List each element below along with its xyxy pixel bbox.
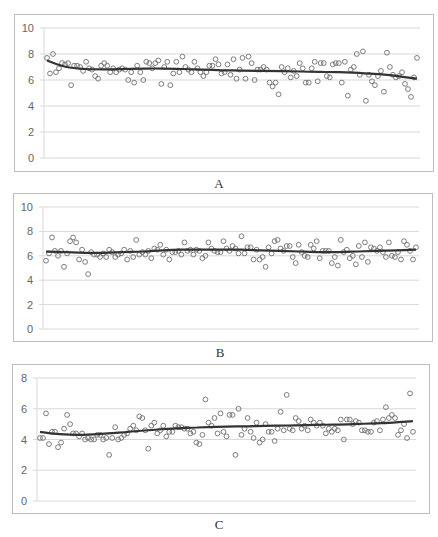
data-point-marker — [239, 433, 244, 438]
data-point-marker — [275, 426, 280, 431]
data-point-marker — [62, 426, 67, 431]
y-tick-label: 2 — [21, 464, 27, 476]
data-point-marker — [170, 429, 175, 434]
y-tick-label: 8 — [21, 372, 27, 384]
data-point-marker — [248, 429, 253, 434]
data-point-marker — [164, 434, 169, 439]
data-point-marker — [233, 453, 238, 458]
data-point-marker — [221, 429, 226, 434]
data-point-marker — [399, 428, 404, 433]
data-point-marker — [152, 420, 157, 425]
data-point-marker — [296, 419, 301, 424]
y-tick-label: 0 — [21, 495, 27, 507]
data-point-marker — [131, 423, 136, 428]
data-point-marker — [329, 429, 334, 434]
data-point-marker — [305, 428, 310, 433]
data-point-marker — [215, 431, 220, 436]
data-point-marker — [68, 422, 73, 427]
data-point-marker — [281, 428, 286, 433]
data-point-marker — [257, 440, 262, 445]
data-point-marker — [44, 411, 49, 416]
data-point-marker — [203, 397, 208, 402]
chart-c-plot: 02468 — [0, 0, 438, 537]
data-point-marker — [284, 393, 289, 398]
panel-label-c: C — [199, 517, 239, 533]
data-point-marker — [47, 442, 52, 447]
data-point-marker — [224, 434, 229, 439]
data-point-marker — [411, 429, 416, 434]
data-point-marker — [200, 433, 205, 438]
data-point-marker — [278, 409, 283, 414]
data-point-marker — [299, 426, 304, 431]
data-point-marker — [218, 411, 223, 416]
data-point-marker — [149, 423, 154, 428]
data-point-marker — [269, 429, 274, 434]
data-point-marker — [206, 420, 211, 425]
y-tick-label: 4 — [21, 434, 27, 446]
data-point-marker — [128, 426, 133, 431]
data-point-marker — [212, 416, 217, 421]
data-point-marker — [326, 426, 331, 431]
data-point-marker — [308, 417, 313, 422]
data-point-marker — [378, 428, 383, 433]
data-point-marker — [293, 416, 298, 421]
data-point-marker — [408, 391, 413, 396]
data-point-marker — [107, 453, 112, 458]
data-point-marker — [393, 416, 398, 421]
data-point-marker — [230, 413, 235, 418]
data-point-marker — [245, 416, 250, 421]
data-point-marker — [65, 413, 70, 418]
y-tick-label: 6 — [21, 403, 27, 415]
data-point-marker — [396, 433, 401, 438]
data-point-marker — [59, 440, 64, 445]
data-point-marker — [146, 446, 151, 451]
data-point-marker — [254, 420, 259, 425]
data-point-marker — [369, 429, 374, 434]
data-point-marker — [56, 445, 61, 450]
data-point-marker — [113, 425, 118, 430]
data-point-marker — [381, 417, 386, 422]
data-point-marker — [161, 423, 166, 428]
data-point-marker — [155, 431, 160, 436]
data-point-marker — [347, 417, 352, 422]
data-point-marker — [323, 431, 328, 436]
data-point-marker — [338, 417, 343, 422]
data-point-marker — [387, 416, 392, 421]
